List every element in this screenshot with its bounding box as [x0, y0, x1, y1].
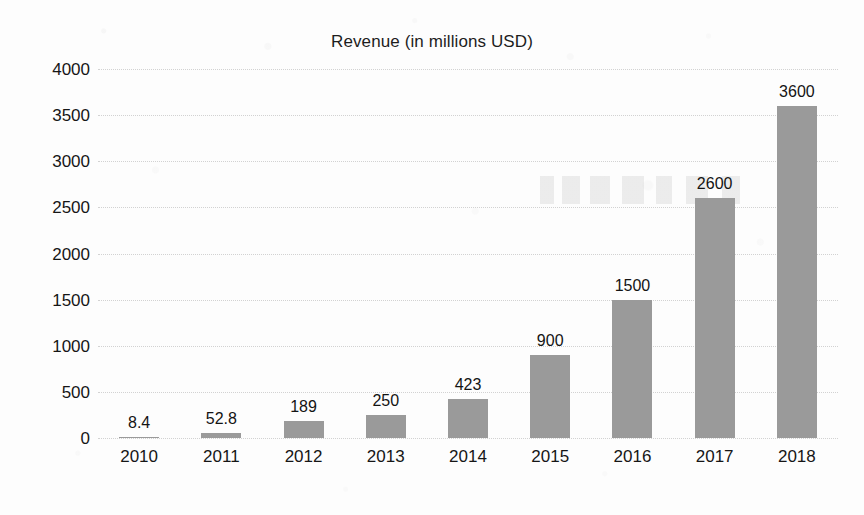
- x-axis-tick-label: 2012: [261, 448, 347, 465]
- y-axis: 40003500300025002000150010005000: [0, 69, 90, 438]
- bar[interactable]: [119, 437, 159, 438]
- bar-value-label: 189: [261, 399, 347, 415]
- bar[interactable]: [366, 415, 406, 438]
- y-axis-tick-label: 2500: [4, 199, 90, 216]
- gridline: [98, 115, 838, 116]
- y-axis-tick-label: 1500: [4, 291, 90, 308]
- x-axis-tick-label: 2017: [672, 448, 758, 465]
- gridline: [98, 161, 838, 162]
- y-axis-tick-label: 0: [4, 430, 90, 447]
- x-axis-tick-label: 2016: [589, 448, 675, 465]
- gridline: [98, 69, 838, 70]
- y-axis-tick-label: 1000: [4, 337, 90, 354]
- bar[interactable]: [612, 300, 652, 438]
- bar-value-label: 8.4: [96, 415, 182, 431]
- chart-page: Revenue (in millions USD) 40003500300025…: [0, 0, 864, 515]
- plot-area: 8.452.8189250423900150026003600: [98, 69, 838, 438]
- y-axis-tick-label: 2000: [4, 245, 90, 262]
- x-axis-tick-label: 2010: [96, 448, 182, 465]
- bar-value-label: 423: [425, 377, 511, 393]
- bar[interactable]: [530, 355, 570, 438]
- bar[interactable]: [448, 399, 488, 438]
- bar[interactable]: [201, 433, 241, 438]
- x-axis-tick-label: 2018: [754, 448, 840, 465]
- x-axis-tick-label: 2011: [178, 448, 264, 465]
- bar[interactable]: [777, 106, 817, 438]
- bar[interactable]: [284, 421, 324, 438]
- bar[interactable]: [695, 198, 735, 438]
- y-axis-tick-label: 4000: [4, 61, 90, 78]
- bar-value-label: 1500: [589, 278, 675, 294]
- bar-value-label: 900: [507, 333, 593, 349]
- chart-title: Revenue (in millions USD): [0, 32, 864, 52]
- x-axis-tick-label: 2015: [507, 448, 593, 465]
- x-axis-tick-label: 2013: [343, 448, 429, 465]
- gridline: [98, 438, 838, 439]
- bar-value-label: 3600: [754, 84, 840, 100]
- bar-value-label: 250: [343, 393, 429, 409]
- y-axis-tick-label: 3000: [4, 153, 90, 170]
- bar-value-label: 2600: [672, 176, 758, 192]
- x-axis-tick-label: 2014: [425, 448, 511, 465]
- bar-value-label: 52.8: [178, 411, 264, 427]
- y-axis-tick-label: 3500: [4, 107, 90, 124]
- y-axis-tick-label: 500: [4, 383, 90, 400]
